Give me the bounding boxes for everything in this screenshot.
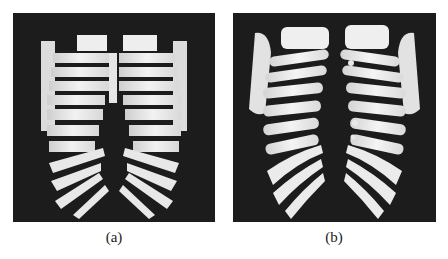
ribcage-smooth-render <box>233 13 436 222</box>
ribcage-voxel-render <box>13 13 215 222</box>
subfigure-b-image <box>233 13 436 222</box>
subfigure-b-caption: (b) <box>304 229 364 246</box>
subfigure-a-caption: (a) <box>84 229 144 246</box>
subfigure-a-image <box>13 13 215 222</box>
